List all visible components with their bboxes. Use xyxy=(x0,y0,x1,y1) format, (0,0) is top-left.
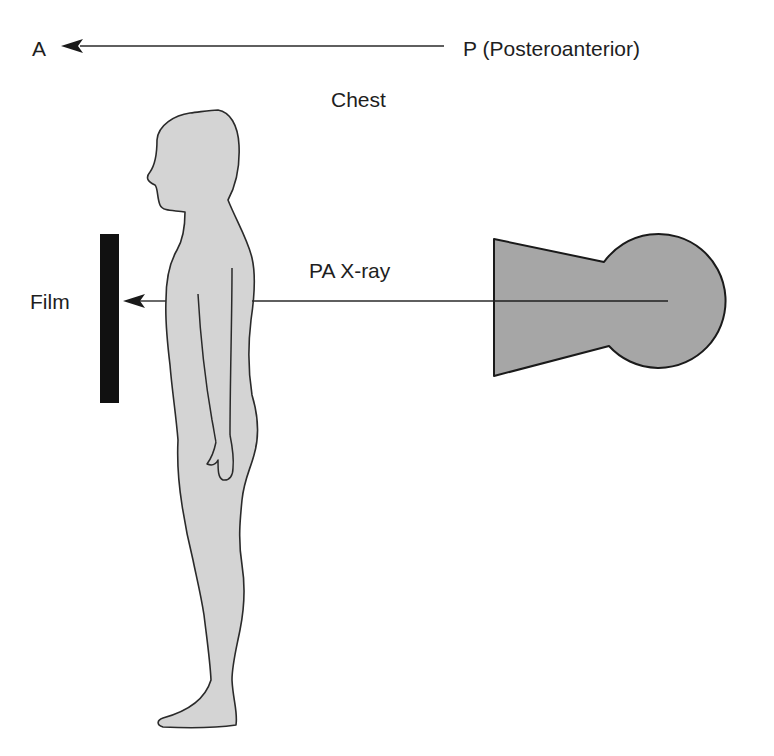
film-plate xyxy=(100,234,119,403)
film-label: Film xyxy=(30,291,70,312)
body-silhouette xyxy=(148,110,258,728)
xray-tube-body xyxy=(494,234,726,376)
beam-label: PA X-ray xyxy=(309,260,390,281)
anterior-label: A xyxy=(32,38,46,59)
chest-label: Chest xyxy=(331,89,386,110)
direction-arrow xyxy=(61,39,444,53)
pa-chest-xray-diagram xyxy=(0,0,774,756)
human-figure xyxy=(148,110,258,728)
posterior-label: P (Posteroanterior) xyxy=(463,38,640,59)
xray-tube xyxy=(494,234,726,376)
arrowhead-icon xyxy=(61,39,83,53)
